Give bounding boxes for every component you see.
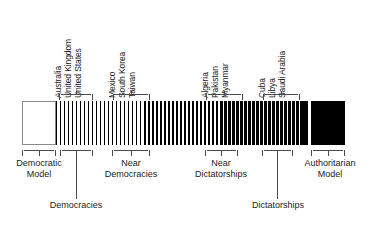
gradient-stripe — [240, 101, 243, 145]
gradient-stripe — [256, 101, 259, 145]
gradient-stripe — [128, 101, 129, 145]
bracket-near-democracies-bottom — [112, 147, 150, 156]
gradient-stripe — [104, 101, 105, 145]
gradient-stripe — [236, 101, 239, 145]
label-authoritarian-model-line1: Authoritarian — [295, 158, 365, 169]
democracy-spectrum-figure: Australia United Kingdom United States M… — [0, 0, 373, 228]
authoritarian-model-swatch — [311, 101, 345, 145]
gradient-stripe — [172, 101, 174, 145]
gradient-stripe — [164, 101, 166, 145]
bracket-democracies-top — [59, 91, 93, 100]
gradient-stripe — [248, 101, 251, 145]
label-democracies: Democracies — [40, 200, 112, 211]
gradient-stripe — [56, 101, 57, 145]
gradient-stripe — [276, 101, 279, 145]
gradient-stripe — [136, 101, 137, 145]
label-authoritarian-model-line2: Model — [295, 169, 365, 180]
gradient-stripe — [60, 101, 61, 145]
gradient-stripes — [56, 101, 311, 145]
label-near-democracies-line2: Democracies — [98, 169, 164, 180]
gradient-stripe — [108, 101, 109, 145]
gradient-stripe — [220, 101, 223, 145]
gradient-stripe — [224, 101, 227, 145]
gradient-stripe — [64, 101, 65, 145]
gradient-stripe — [216, 101, 218, 145]
spectrum-bar — [22, 101, 345, 145]
gradient-stripe — [88, 101, 89, 145]
gradient-stripe — [176, 101, 178, 145]
democratic-model-swatch — [22, 101, 56, 145]
gradient-stripe — [184, 101, 186, 145]
gradient-stripe — [144, 101, 146, 145]
leader-line-dictatorships — [277, 152, 278, 199]
gradient-stripe — [96, 101, 97, 145]
bracket-near-dictatorships-bottom — [205, 147, 238, 156]
label-authoritarian-model: Authoritarian Model — [295, 158, 365, 179]
gradient-stripe — [100, 101, 101, 145]
bracket-democratic-model — [22, 147, 56, 156]
gradient-stripe — [68, 101, 69, 145]
bracket-authoritarian-model — [311, 147, 345, 156]
gradient-stripe — [112, 101, 113, 145]
gradient-stripe — [72, 101, 73, 145]
label-near-dictatorships: Near Dictatorships — [186, 158, 256, 179]
gradient-stripe — [284, 101, 287, 145]
gradient-stripe — [280, 101, 283, 145]
gradient-stripe — [160, 101, 162, 145]
bracket-near-dictatorships-top — [206, 91, 243, 100]
gradient-stripe — [92, 101, 93, 145]
label-near-dictatorships-line1: Near — [186, 158, 256, 169]
gradient-stripe — [264, 101, 267, 145]
gradient-stripe — [296, 101, 299, 145]
bracket-dictatorships-top — [263, 91, 300, 100]
gradient-stripe — [196, 101, 198, 145]
gradient-stripe — [260, 101, 263, 145]
gradient-stripe — [208, 101, 210, 145]
gradient-stripe — [272, 101, 275, 145]
label-democratic-model: Democratic Model — [6, 158, 72, 179]
label-democratic-model-line1: Democratic — [6, 158, 72, 169]
gradient-stripe — [116, 101, 117, 145]
gradient-stripe — [76, 101, 77, 145]
gradient-stripe — [200, 101, 202, 145]
gradient-stripe — [148, 101, 150, 145]
gradient-stripe — [300, 101, 304, 145]
gradient-stripe — [132, 101, 133, 145]
label-dictatorships: Dictatorships — [242, 200, 314, 211]
country-label-united-kingdom: United Kingdom — [64, 39, 73, 98]
bracket-near-democracies-top — [113, 91, 150, 100]
gradient-stripe — [304, 101, 308, 145]
gradient-stripe — [180, 101, 182, 145]
label-near-democracies-line1: Near — [98, 158, 164, 169]
gradient-stripe — [244, 101, 247, 145]
gradient-stripe — [268, 101, 271, 145]
gradient-stripe — [252, 101, 255, 145]
gradient-stripe — [292, 101, 295, 145]
gradient-stripe — [192, 101, 194, 145]
gradient-stripe — [124, 101, 125, 145]
gradient-stripe — [120, 101, 121, 145]
label-near-dictatorships-line2: Dictatorships — [186, 169, 256, 180]
gradient-stripe — [288, 101, 291, 145]
gradient-stripe — [212, 101, 214, 145]
gradient-stripe — [152, 101, 154, 145]
gradient-stripe — [84, 101, 85, 145]
gradient-stripe — [168, 101, 170, 145]
gradient-stripe — [204, 101, 206, 145]
gradient-stripe — [188, 101, 190, 145]
label-democratic-model-line2: Model — [6, 169, 72, 180]
leader-line-democracies — [76, 152, 77, 199]
label-near-democracies: Near Democracies — [98, 158, 164, 179]
gradient-stripe — [228, 101, 231, 145]
gradient-stripe — [140, 101, 141, 145]
gradient-stripe — [80, 101, 81, 145]
gradient-stripe — [232, 101, 235, 145]
gradient-stripe — [156, 101, 158, 145]
